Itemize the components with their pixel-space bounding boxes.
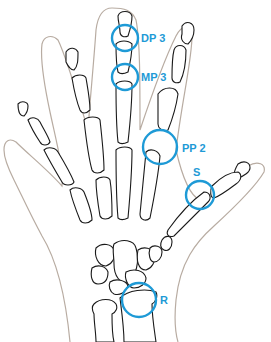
thumb-bones	[161, 162, 250, 251]
middle-finger-bones	[116, 12, 132, 220]
region-label: MP 3	[141, 71, 166, 83]
region-label: S	[193, 166, 200, 178]
carpal-bones	[91, 241, 162, 295]
little-finger-bones	[18, 102, 92, 223]
region-label: PP 2	[182, 142, 206, 154]
region-label: R	[160, 294, 168, 306]
hand-diagram: DP 3 MP 3 PP 2 S R	[0, 0, 271, 342]
region-label: DP 3	[141, 32, 165, 44]
